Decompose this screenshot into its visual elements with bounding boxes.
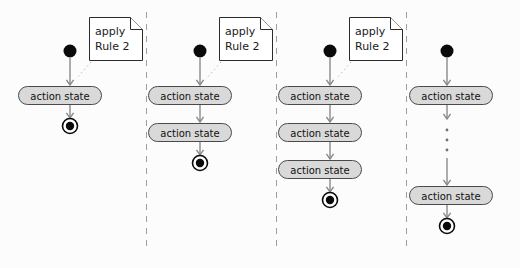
final-node-core [443,222,451,230]
note-anchor-line [336,62,351,79]
final-node [440,219,455,234]
action-state-label: action state [290,91,349,102]
edge-state-1-to-state-2 [326,105,333,122]
note-apply-rule-panel-3: apply Rule 2 [350,18,403,61]
activity-diagram-canvas: apply Rule 2 action state [0,0,520,268]
final-node-core [326,196,334,204]
edge-state-2-to-final [196,142,203,155]
edge-state-3-to-final [326,179,333,192]
action-state-3[interactable]: action state [279,161,362,179]
note-apply-rule-panel-1: apply Rule 2 [90,18,143,61]
note-line-2: Rule 2 [355,40,389,53]
note-line-1: apply [225,25,256,38]
action-state-1[interactable]: action state [149,87,232,105]
panel-1: apply Rule 2 action state [19,18,143,134]
action-state-label: action state [30,91,89,102]
final-node [323,193,338,208]
note-anchor-line [206,62,221,79]
final-node [63,119,78,134]
note-anchor-line [76,62,91,79]
final-node [193,156,208,171]
action-state-label: action state [421,91,480,102]
final-node-core [66,122,74,130]
action-state-1[interactable]: action state [19,87,102,105]
edge-initial-to-state-1 [66,58,73,85]
edge-state-1-to-ellipsis [443,105,450,119]
panel-2: apply Rule 2 action state action state [149,18,273,171]
note-line-2: Rule 2 [225,40,259,53]
initial-node [441,45,454,58]
edge-ellipsis-to-state-2 [443,158,450,185]
ellipsis-dot-1 [446,129,449,132]
action-state-label: action state [290,165,349,176]
action-state-1[interactable]: action state [410,87,493,105]
initial-node [64,45,77,58]
final-node-core [196,159,204,167]
edge-initial-to-state-1 [443,58,450,85]
ellipsis-dot-3 [446,149,449,152]
edge-initial-to-state-1 [326,58,333,85]
edge-state-2-to-final [443,205,450,218]
note-apply-rule-panel-2: apply Rule 2 [220,18,273,61]
initial-node [194,45,207,58]
vertical-ellipsis-icon [446,129,449,152]
edge-state-2-to-state-3 [326,142,333,159]
panel-3: apply Rule 2 action state action state [279,18,403,208]
initial-node [324,45,337,58]
action-state-label: action state [421,191,480,202]
edge-initial-to-state-1 [196,58,203,85]
action-state-2[interactable]: action state [149,124,232,142]
action-state-label: action state [160,128,219,139]
note-line-2: Rule 2 [95,40,129,53]
diagram-svg: apply Rule 2 action state [0,0,520,268]
note-line-1: apply [95,25,126,38]
action-state-1[interactable]: action state [279,87,362,105]
edge-state-1-to-final [66,105,73,118]
action-state-label: action state [290,128,349,139]
panel-4: action state action state [410,45,493,234]
action-state-2[interactable]: action state [279,124,362,142]
edge-state-1-to-state-2 [196,105,203,122]
action-state-label: action state [160,91,219,102]
action-state-2[interactable]: action state [410,187,493,205]
note-line-1: apply [355,25,386,38]
ellipsis-dot-2 [446,139,449,142]
